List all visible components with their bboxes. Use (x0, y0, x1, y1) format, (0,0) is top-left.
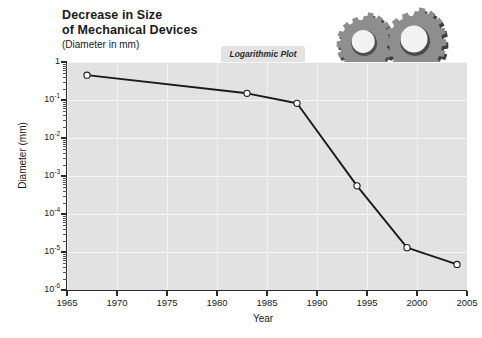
x-axis-title-text: Year (253, 313, 273, 324)
y-axis-minor-tick (63, 68, 67, 69)
x-axis-tick (466, 291, 467, 296)
x-axis-tick-label: 1990 (295, 297, 339, 308)
x-axis-tick (316, 291, 317, 296)
y-axis-minor-tick (63, 66, 67, 67)
chart-title-line-1: Decrease in Size (62, 8, 312, 23)
y-axis-minor-tick (63, 220, 67, 221)
y-axis-minor-tick (63, 70, 67, 71)
plot-area (67, 62, 467, 290)
y-axis-minor-tick (63, 279, 67, 280)
y-axis-tick (61, 61, 67, 63)
y-axis-minor-tick (63, 115, 67, 116)
y-axis-minor-tick (63, 77, 67, 78)
x-axis-tick (166, 291, 167, 296)
y-axis-minor-tick (63, 158, 67, 159)
y-axis-minor-tick (63, 184, 67, 185)
y-axis-minor-tick (63, 64, 67, 65)
gridline-vertical (217, 62, 218, 290)
y-axis-minor-tick (63, 153, 67, 154)
y-axis-tick (61, 251, 67, 253)
y-axis-minor-tick (63, 127, 67, 128)
y-axis-minor-tick (63, 241, 67, 242)
y-axis-title-text: Diameter (mm) (17, 122, 28, 189)
y-axis-minor-tick (63, 149, 67, 150)
gridline-vertical (117, 62, 118, 290)
x-axis-tick-label: 1995 (345, 297, 389, 308)
y-axis-tick (61, 99, 67, 101)
y-axis-minor-tick (63, 229, 67, 230)
y-axis-minor-tick (63, 108, 67, 109)
y-axis-minor-tick (63, 142, 67, 143)
gridline-vertical (367, 62, 368, 290)
y-axis-minor-tick (63, 254, 67, 255)
y-axis-tick (61, 213, 67, 215)
x-axis-tick (216, 291, 217, 296)
y-axis-minor-tick (63, 73, 67, 74)
y-axis-minor-tick (63, 140, 67, 141)
annotation-label: Logarithmic Plot (229, 49, 296, 59)
y-axis-minor-tick (63, 216, 67, 217)
y-axis-minor-tick (63, 256, 67, 257)
y-axis-tick-label: 1 (10, 56, 60, 68)
x-axis-tick-label: 1965 (45, 297, 89, 308)
y-axis-minor-tick (63, 146, 67, 147)
y-axis-tick (61, 137, 67, 139)
x-axis-tick-label: 1975 (145, 297, 189, 308)
y-axis-minor-tick (63, 89, 67, 90)
gridline-vertical (417, 62, 418, 290)
y-axis-minor-tick (63, 82, 67, 83)
annotation-logarithmic-plot: Logarithmic Plot (221, 46, 305, 62)
gridline-vertical (267, 62, 268, 290)
y-axis-minor-tick (63, 102, 67, 103)
x-axis-title: Year (0, 313, 476, 324)
y-axis-title: Diameter (mm) (17, 96, 28, 216)
y-axis-minor-tick (63, 104, 67, 105)
y-axis-minor-tick (63, 182, 67, 183)
y-axis-minor-tick (63, 203, 67, 204)
y-axis-minor-tick (63, 222, 67, 223)
y-axis-minor-tick (63, 263, 67, 264)
y-axis-minor-tick (63, 106, 67, 107)
y-axis-tick-label: 10-5 (10, 246, 60, 258)
x-axis-tick (366, 291, 367, 296)
y-axis-minor-tick (63, 180, 67, 181)
gridline-vertical (317, 62, 318, 290)
y-axis-minor-tick (63, 258, 67, 259)
y-axis-minor-tick (63, 178, 67, 179)
y-axis-minor-tick (63, 196, 67, 197)
gears-icon (322, 6, 450, 62)
y-axis-minor-tick (63, 225, 67, 226)
y-axis-minor-tick (63, 187, 67, 188)
y-axis-minor-tick (63, 260, 67, 261)
x-axis-tick (416, 291, 417, 296)
y-axis-tick-label: 10-6 (10, 284, 60, 296)
y-axis-minor-tick (63, 111, 67, 112)
chart-title-line-2: of Mechanical Devices (62, 23, 312, 38)
y-axis-minor-tick (63, 272, 67, 273)
x-axis-tick-label: 1980 (195, 297, 239, 308)
x-axis-tick-label: 2005 (445, 297, 482, 308)
y-axis-minor-tick (63, 234, 67, 235)
y-axis-minor-tick (63, 267, 67, 268)
y-axis-tick (61, 175, 67, 177)
x-axis-tick-label: 1970 (95, 297, 139, 308)
x-axis-tick (116, 291, 117, 296)
y-axis-minor-tick (63, 144, 67, 145)
x-axis-tick (266, 291, 267, 296)
y-axis-minor-tick (63, 120, 67, 121)
y-axis-minor-tick (63, 191, 67, 192)
x-axis-tick (66, 291, 67, 296)
gridline-vertical (167, 62, 168, 290)
y-axis-minor-tick (63, 165, 67, 166)
y-axis-minor-tick (63, 218, 67, 219)
x-axis-tick-label: 2000 (395, 297, 439, 308)
gears-illustration (322, 6, 450, 62)
x-axis-tick-label: 1985 (245, 297, 289, 308)
